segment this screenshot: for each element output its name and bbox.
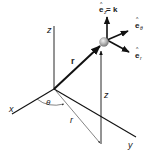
theta-arc <box>37 99 64 105</box>
height-label: z <box>103 90 109 100</box>
y-axis <box>54 89 136 137</box>
z-axis-label: z <box>46 25 52 35</box>
y-axis-label: y <box>127 140 133 150</box>
x-axis-label: x <box>8 104 14 114</box>
etheta-sub: θ <box>140 25 143 31</box>
radial-projection-arrow <box>56 91 100 143</box>
etheta-unit-vector <box>107 31 128 40</box>
er-unit-vector <box>107 40 129 52</box>
position-vector-arrow <box>54 46 100 89</box>
ez-equals-k: = k <box>106 5 118 14</box>
etheta-label: ^ e θ <box>135 16 143 31</box>
particle <box>100 38 109 47</box>
er-sub: r <box>140 55 142 61</box>
position-vector-label: r <box>71 56 75 66</box>
cylindrical-coordinates-diagram: z x y r r z θ ^ e z = k ^ e θ ^ e r <box>0 0 155 155</box>
radial-projection-label: r <box>70 115 74 125</box>
theta-label: θ <box>46 98 51 107</box>
er-label: ^ e r <box>135 46 142 61</box>
ez-label: ^ e z = k <box>99 1 118 15</box>
